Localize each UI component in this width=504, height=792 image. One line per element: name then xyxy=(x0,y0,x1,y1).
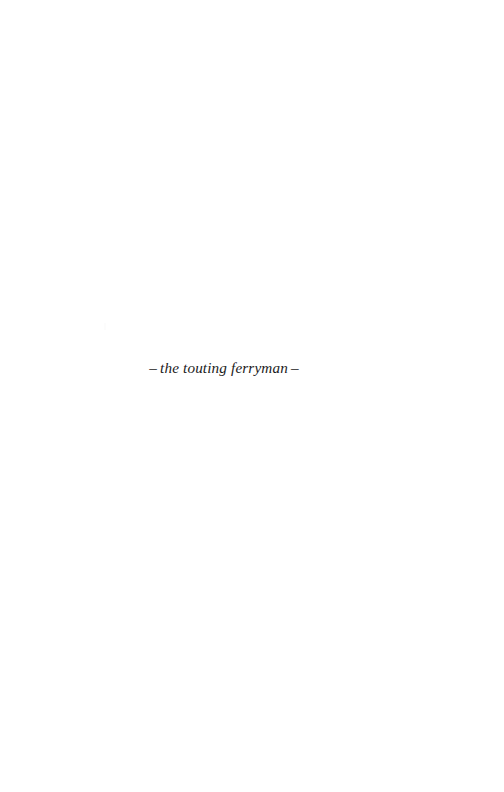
trailing-dash: – xyxy=(288,359,299,376)
leading-dash: – xyxy=(149,359,160,376)
part-title-line: – the touting ferryman – xyxy=(149,357,299,378)
scan-artifact-speck xyxy=(104,323,106,330)
part-title-block: – the touting ferryman – xyxy=(0,357,504,378)
scanned-page: – the touting ferryman – xyxy=(0,0,504,792)
part-title-text: the touting ferryman xyxy=(160,359,288,376)
